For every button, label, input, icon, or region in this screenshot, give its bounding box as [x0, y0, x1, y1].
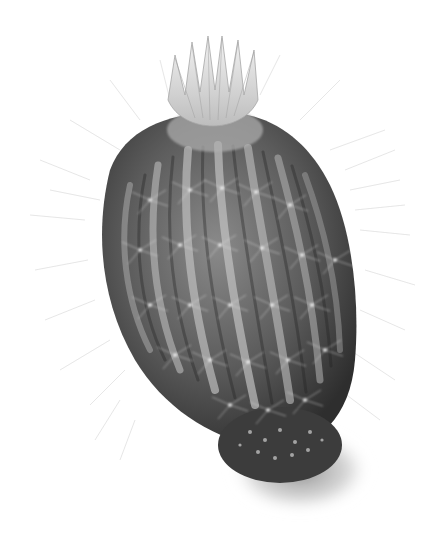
flower-crown [168, 36, 258, 126]
basal-offset [218, 407, 342, 483]
cactus-artwork [0, 0, 431, 544]
cactus-illustration [0, 0, 431, 544]
